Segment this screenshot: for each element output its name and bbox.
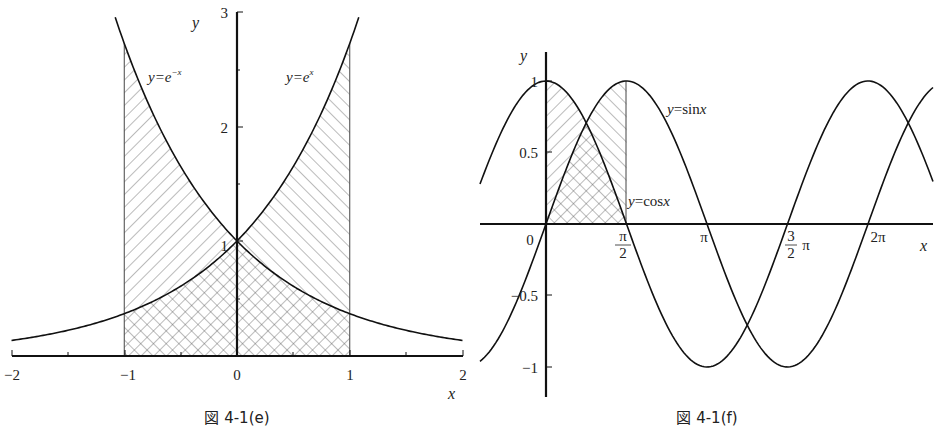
y-tick-label-neg1: −1 [522,360,538,376]
svg-text:π: π [802,237,810,253]
svg-text:3: 3 [787,228,795,244]
y-tick-label-3: 3 [221,5,229,21]
x-tick-label-neg2: −2 [4,367,20,383]
x-tick-label-three-half-pi: 3 2 π [785,228,810,261]
y-tick-label-2: 2 [221,120,229,136]
x-axis-label: x [447,385,455,402]
curve-label-exp-neg-x: y=e−x [146,67,182,85]
x-tick-label-1: 1 [346,367,354,383]
x-tick-label-2: 2 [459,367,467,383]
figure-canvas: −2 −1 0 1 2 1 2 3 y x y=e−x y=ex 図 4-1(e… [0,0,943,430]
chart-exp: −2 −1 0 1 2 1 2 3 y x y=e−x y=ex 図 4-1(e… [4,5,467,427]
y-axis-label: y [518,47,528,65]
y-tick-label-0.5: 0.5 [519,145,538,161]
curve-label-sin: y=sinx [665,101,707,117]
svg-text:π: π [619,228,627,244]
svg-text:2: 2 [619,245,627,261]
curve-label-cos: y=cosx [626,193,670,209]
x-axis-label: x [919,237,927,254]
svg-text:2: 2 [787,245,795,261]
y-axis-label: y [190,14,200,32]
chart-trig: 1 0.5 −0.5 −1 0 π 2 π 3 2 π 2π y x y=sin… [480,47,933,427]
x-tick-label-pi: π [700,229,708,245]
y-tick-label-1: 1 [531,74,539,90]
figure-caption-f: 図 4-1(f) [676,409,737,427]
figure-caption-e: 図 4-1(e) [204,409,269,427]
curve-label-exp-x: y=ex [284,67,313,85]
y-tick-label-1: 1 [221,238,229,254]
x-tick-label-2pi: 2π [870,229,886,245]
x-tick-label-neg1: −1 [120,367,136,383]
x-tick-label-pi-half: π 2 [615,228,631,261]
origin-label: 0 [526,232,534,248]
y-tick-label-neg0.5: −0.5 [511,288,538,304]
x-tick-label-0: 0 [233,367,241,383]
